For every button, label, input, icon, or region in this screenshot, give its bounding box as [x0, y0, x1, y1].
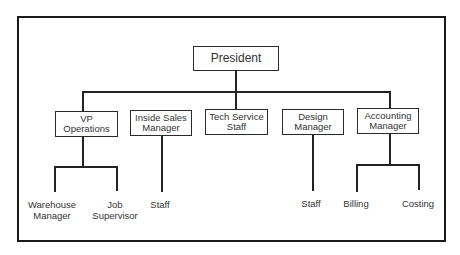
connector [54, 166, 117, 168]
label-line: Staff [301, 199, 320, 210]
connector [418, 164, 420, 190]
warehouse-manager-label: Warehouse Manager [28, 200, 76, 221]
connector [235, 71, 237, 109]
connector [356, 164, 419, 166]
president-box: President [193, 46, 279, 71]
box-line: Manager [294, 122, 332, 133]
box-line: Staff [209, 122, 263, 133]
connector [116, 166, 118, 191]
connector [82, 137, 84, 167]
connector [312, 135, 314, 191]
president-label: President [211, 53, 262, 64]
connector [82, 91, 84, 111]
job-supervisor-label: Job Supervisor [92, 200, 137, 221]
box-line: Manager [135, 123, 187, 134]
box-line: Manager [364, 121, 411, 132]
connector [161, 136, 163, 192]
label-line: Billing [343, 199, 368, 210]
design-staff-label: Staff [301, 199, 320, 210]
inside-sales-staff-label: Staff [150, 200, 169, 211]
label-line: Costing [402, 199, 434, 210]
accounting-manager-box: AccountingManager [357, 108, 419, 134]
connector [356, 164, 358, 192]
label-line: Staff [150, 200, 169, 211]
design-manager-box: DesignManager [282, 109, 344, 135]
tech-service-staff-box: Tech ServiceStaff [205, 109, 268, 135]
connector [389, 134, 391, 165]
label-line: Job [92, 200, 137, 211]
vp-operations-box: VPOperations [55, 111, 118, 137]
costing-label: Costing [402, 199, 434, 210]
label-line: Warehouse [28, 200, 76, 211]
box-line: Operations [63, 124, 109, 135]
inside-sales-manager-box: Inside SalesManager [130, 110, 192, 136]
connector [54, 166, 56, 192]
label-line: Manager [28, 211, 76, 222]
connector [82, 91, 390, 93]
billing-label: Billing [343, 199, 368, 210]
label-line: Supervisor [92, 211, 137, 222]
connector [389, 91, 391, 109]
